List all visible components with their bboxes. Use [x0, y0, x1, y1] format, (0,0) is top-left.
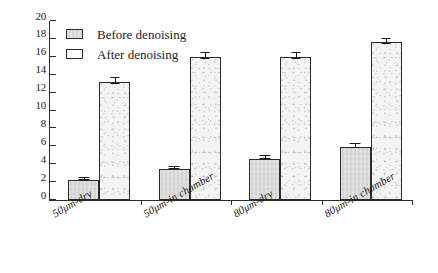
- y-axis-tick-label: 10: [35, 100, 46, 111]
- error-bar-cap-upper: [291, 52, 300, 53]
- bar-group: [231, 21, 322, 200]
- x-axis-tick: [412, 200, 413, 205]
- error-bar-cap-lower: [169, 168, 180, 169]
- y-axis-tick-label: 12: [35, 82, 46, 93]
- bar-group: [50, 21, 141, 200]
- error-bar-cap-lower: [350, 147, 361, 148]
- y-axis-tick-label: 8: [41, 117, 46, 128]
- bar-chart-figure: Before denoising After denoising 0246810…: [0, 0, 438, 273]
- y-axis-tick-label: 20: [35, 10, 46, 21]
- y-axis-tick-label: 4: [41, 153, 46, 164]
- error-bar-cap-upper: [259, 155, 270, 156]
- error-bar-cap-lower: [291, 58, 300, 59]
- x-axis-tick: [322, 200, 323, 205]
- error-bar-cap-lower: [201, 58, 210, 59]
- y-axis-tick-label: 16: [35, 46, 46, 57]
- error-bar-cap-upper: [110, 77, 119, 78]
- error-bar-cap-lower: [78, 179, 89, 180]
- x-axis-tick: [141, 200, 142, 205]
- error-bar-cap-upper: [201, 52, 210, 53]
- y-axis-tick-label: 14: [35, 64, 46, 75]
- error-bar-cap-upper: [78, 177, 89, 178]
- y-axis-tick-label: 2: [41, 171, 46, 182]
- error-bar-cap-upper: [382, 38, 391, 39]
- bar-group: [322, 21, 413, 200]
- error-bar-cap-lower: [259, 158, 270, 159]
- bar-group: [141, 21, 232, 200]
- y-axis-tick-label: 0: [41, 189, 46, 200]
- plot-area: 02468101214161820: [49, 21, 412, 201]
- bar-after-denoising: [99, 82, 130, 200]
- error-bar-cap-upper: [350, 143, 361, 144]
- y-axis-tick-label: 6: [41, 135, 46, 146]
- x-axis-tick: [231, 200, 232, 205]
- bar-after-denoising: [280, 57, 311, 200]
- y-axis-tick-label: 18: [35, 28, 46, 39]
- error-bar-cap-lower: [110, 83, 119, 84]
- error-bar-cap-upper: [169, 166, 180, 167]
- error-bar-cap-lower: [382, 43, 391, 44]
